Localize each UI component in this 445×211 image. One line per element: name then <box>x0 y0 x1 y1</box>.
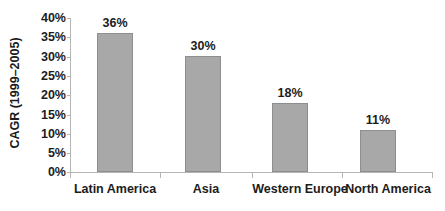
y-tick-label: 25% <box>41 69 66 83</box>
x-axis-label-north-america: North America <box>345 182 431 196</box>
data-label: 30% <box>190 39 215 53</box>
y-tick-label: 20% <box>41 88 66 102</box>
data-label: 11% <box>366 113 390 127</box>
data-label: 36% <box>102 16 127 30</box>
x-tickmark <box>252 173 253 178</box>
bar-latin-america[interactable] <box>97 33 133 172</box>
y-tick-label: 0% <box>48 165 66 179</box>
x-axis-label-western-europe: Western Europe <box>252 182 348 196</box>
x-tickmark <box>342 173 343 178</box>
x-tickmark <box>432 173 433 178</box>
y-tick-label: 30% <box>41 50 66 64</box>
y-axis-tick-labels: 40% 35% 30% 25% 20% 15% 10% 5% 0% <box>0 0 66 211</box>
plot-area <box>70 18 432 172</box>
y-tick-label: 40% <box>41 11 66 25</box>
x-tickmark <box>160 173 161 178</box>
y-tick-label: 15% <box>41 108 66 122</box>
y-tick-label: 10% <box>41 127 66 141</box>
bar-north-america[interactable] <box>360 130 396 172</box>
x-axis-label-asia: Asia <box>193 182 219 196</box>
data-label: 18% <box>277 86 302 100</box>
bar-asia[interactable] <box>185 56 221 172</box>
bar-chart: CAGR (1999–2005) 40% 35% 30% 25% 20% 15%… <box>0 0 445 211</box>
y-tick-label: 5% <box>48 146 66 160</box>
x-tickmark <box>70 173 71 178</box>
x-axis-label-latin-america: Latin America <box>74 182 156 196</box>
y-tick-label: 35% <box>41 30 66 44</box>
bar-western-europe[interactable] <box>272 103 308 172</box>
